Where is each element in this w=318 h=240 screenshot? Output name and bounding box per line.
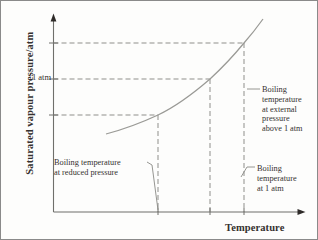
- y-tick-label-1-atm: 1 atm: [27, 72, 51, 82]
- x-axis: [54, 209, 306, 215]
- annotation-at-1-atm: Boiling temperature at 1 atm: [257, 164, 317, 193]
- annotation-external-pressure: Boiling temperature at external pressure…: [262, 85, 318, 134]
- annotation-reduced-pressure: Boiling temperature at reduced pressure: [54, 158, 166, 178]
- vapour-pressure-curve: [106, 19, 263, 134]
- annotation-at-1-atm-line-3: at 1 atm: [257, 184, 317, 194]
- annotation-external-pressure-line-3: at external: [262, 105, 318, 115]
- y-axis-title: Saturated vapour pressure/atm: [24, 10, 36, 196]
- x-axis-title: Temperature: [225, 222, 284, 234]
- vapour-pressure-chart-figure: Saturated vapour pressure/atm Temperatur…: [0, 0, 318, 240]
- leader-line-at-1-atm: [241, 167, 255, 177]
- annotation-external-pressure-line-4: pressure: [262, 114, 318, 124]
- annotation-reduced-pressure-line-2: at reduced pressure: [54, 168, 166, 178]
- annotation-reduced-pressure-line-1: Boiling temperature: [54, 158, 166, 168]
- annotation-external-pressure-line-2: temperature: [262, 95, 318, 105]
- horizontal-guide-lines: [54, 43, 245, 115]
- annotation-at-1-atm-line-1: Boiling: [257, 164, 317, 174]
- annotation-external-pressure-line-5: above 1 atm: [262, 124, 318, 134]
- annotation-at-1-atm-line-2: temperature: [257, 174, 317, 184]
- annotation-external-pressure-line-1: Boiling: [262, 85, 318, 95]
- vertical-guide-lines: [158, 43, 244, 212]
